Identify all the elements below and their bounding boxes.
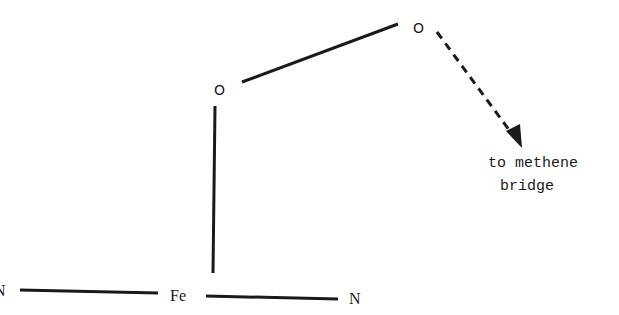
annotation-line-2: bridge: [500, 179, 554, 194]
bond-fe-n-right: [206, 296, 338, 299]
bond-n-left-fe: [20, 290, 158, 293]
atom-iron: Fe: [170, 288, 186, 304]
atom-nitrogen-right: N: [349, 291, 361, 307]
atom-oxygen-upper: O: [413, 21, 424, 35]
bond-o-o: [242, 24, 398, 82]
fe-o2-bonding-diagram: O O Fe N N to methene bridge: [0, 0, 619, 315]
atom-nitrogen-left: N: [0, 283, 6, 299]
atom-oxygen-lower: O: [214, 83, 225, 97]
dashed-arrow-icon: [437, 32, 515, 138]
annotation-line-1: to methene: [488, 156, 578, 171]
bond-fe-o: [213, 106, 215, 273]
